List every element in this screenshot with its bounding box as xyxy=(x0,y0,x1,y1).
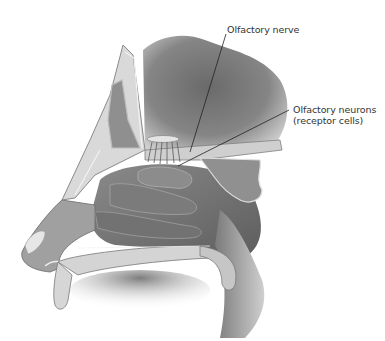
cranial-region xyxy=(143,36,287,150)
olfactory-bulb xyxy=(147,136,179,143)
olfactory-nerve-label: Olfactory nerve xyxy=(227,24,299,35)
olfactory-neurons-label: Olfactory neurons (receptor cells) xyxy=(293,104,376,126)
olfactory-neurons-label-line1: Olfactory neurons xyxy=(293,104,376,115)
olfactory-nerve-label-text: Olfactory nerve xyxy=(227,24,299,35)
hard-palate xyxy=(54,246,236,310)
olfactory-neurons-label-line2: (receptor cells) xyxy=(293,115,376,126)
nasal-cavity-illustration xyxy=(0,0,385,341)
